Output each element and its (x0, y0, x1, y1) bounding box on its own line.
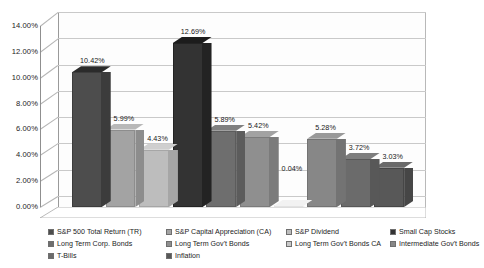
bar-side-3d (203, 43, 212, 207)
legend-swatch-icon (48, 241, 54, 247)
legend-swatch-icon (48, 253, 54, 259)
bar-side-3d (135, 130, 144, 207)
legend-item[interactable]: T-Bills (48, 250, 166, 262)
legend-swatch-icon (286, 229, 292, 235)
legend-swatch-icon (390, 229, 396, 235)
legend-item[interactable]: Small Cap Stocks (390, 226, 484, 238)
bar-value-label: 12.69% (181, 28, 206, 36)
bar-face (72, 72, 102, 207)
legend-item[interactable]: Long Term Gov't Bonds CA (286, 238, 390, 250)
bar-side-3d (404, 168, 413, 207)
legend-label: S&P Capital Appreciation (CA) (175, 226, 271, 238)
bar-face (307, 139, 337, 207)
bar-value-label: 5.99% (114, 115, 135, 123)
legend-item[interactable]: S&P 500 Total Return (TR) (48, 226, 166, 238)
legend-swatch-icon (166, 253, 172, 259)
legend-item[interactable]: Long Term Gov't Bonds (166, 238, 286, 250)
bar (274, 206, 304, 207)
bar-value-label: 10.42% (80, 57, 105, 65)
bar (72, 72, 102, 207)
plot-area: 14.00%12.00%10.00%8.00%6.00%4.00%2.00%0.… (0, 0, 448, 218)
bar-value-label: 5.28% (315, 124, 336, 132)
legend-label: Long Term Gov't Bonds (175, 238, 249, 250)
legend-item[interactable]: Intermediate Gov't Bonds (390, 238, 484, 250)
legend-label: Intermediate Gov't Bonds (399, 238, 479, 250)
bar-side-3d (371, 159, 380, 207)
bar-value-label: 5.42% (248, 122, 269, 130)
bar-value-label: 3.03% (382, 153, 403, 161)
legend-label: Inflation (175, 250, 200, 262)
legend-label: S&P 500 Total Return (TR) (57, 226, 142, 238)
bar-value-label: 3.72% (349, 144, 370, 152)
bar-side-3d (169, 150, 178, 207)
bar-side-3d (236, 131, 245, 207)
legend-label: Long Term Corp. Bonds (57, 238, 132, 250)
legend-label: Small Cap Stocks (399, 226, 455, 238)
legend-item[interactable]: Long Term Corp. Bonds (48, 238, 166, 250)
legend-label: T-Bills (57, 250, 76, 262)
bar-value-label: 0.04% (282, 165, 303, 173)
chart-legend: S&P 500 Total Return (TR)S&P Capital App… (0, 224, 448, 268)
legend-item[interactable]: S&P Dividend (286, 226, 390, 238)
legend-label: S&P Dividend (295, 226, 339, 238)
bar (307, 139, 337, 207)
bar-side-3d (337, 139, 346, 207)
legend-swatch-icon (286, 241, 292, 247)
legend-swatch-icon (166, 229, 172, 235)
bar-value-label: 4.43% (147, 135, 168, 143)
bar-side-3d (270, 137, 279, 207)
legend-item[interactable]: S&P Capital Appreciation (CA) (166, 226, 286, 238)
legend-swatch-icon (48, 229, 54, 235)
bar-value-label: 5.89% (214, 116, 235, 124)
legend-label: Long Term Gov't Bonds CA (295, 238, 381, 250)
legend-swatch-icon (390, 241, 396, 247)
legend-swatch-icon (166, 241, 172, 247)
legend-item[interactable]: Inflation (166, 250, 286, 262)
bar-side-3d (102, 72, 111, 207)
